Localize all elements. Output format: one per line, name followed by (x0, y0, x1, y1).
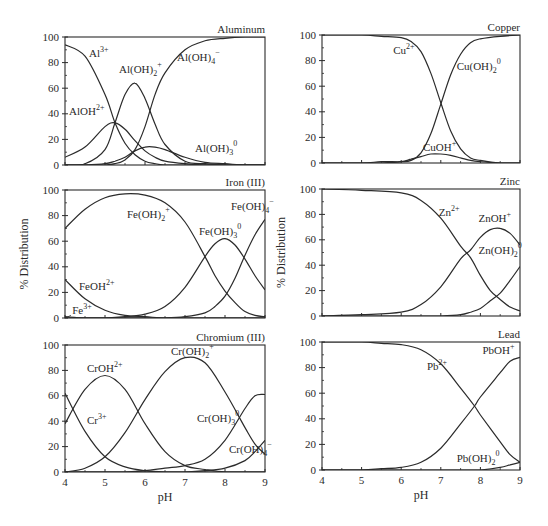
x-tick-label: 8 (478, 474, 484, 486)
panel-iron-iii: Iron (III)020406080100% DistributionFe3+… (17, 176, 274, 324)
curve-cr-oh-3-0 (65, 394, 265, 472)
y-tick-label: 20 (48, 440, 60, 452)
species-label-cr-oh-4: Cr(OH)4− (229, 440, 272, 458)
panel-title: Iron (III) (226, 176, 266, 189)
y-tick-label: 40 (48, 415, 60, 427)
y-tick-label: 40 (48, 107, 60, 119)
y-tick-label: 60 (305, 233, 317, 245)
x-tick-label: 9 (262, 476, 268, 488)
plot-frame (322, 342, 520, 470)
species-label-zn-oh-2-0: Zn(OH)20 (478, 241, 521, 259)
y-tick-label: 20 (305, 284, 317, 296)
y-tick-label: 0 (311, 310, 317, 322)
curve-cu2 (322, 35, 520, 163)
y-tick-label: 100 (43, 184, 60, 196)
y-tick-label: 100 (300, 183, 317, 195)
x-axis-label: pH (414, 488, 429, 502)
panel-title: Copper (488, 21, 521, 33)
panel-aluminum: Aluminum020406080100Al3+AlOH2+Al(OH)2+Al… (43, 23, 266, 171)
panel-chromium-iii: Chromium (III)020406080100456789pHCr3+Cr… (43, 331, 273, 504)
species-label-al-oh-4: Al(OH)4− (177, 48, 220, 66)
curve-cu-oh-2-0 (322, 35, 520, 163)
y-tick-label: 100 (300, 29, 317, 41)
y-tick-label: 60 (305, 80, 317, 92)
y-tick-label: 60 (48, 82, 60, 94)
curve-cr3 (65, 393, 265, 472)
species-label-fe-oh-4: Fe(OH)4− (231, 197, 274, 215)
y-tick-label: 100 (43, 31, 60, 43)
y-tick-label: 20 (48, 133, 60, 145)
x-tick-label: 4 (62, 476, 68, 488)
y-tick-label: 0 (54, 312, 60, 324)
y-tick-label: 40 (305, 105, 317, 117)
curve-al-oh-2 (65, 83, 265, 165)
species-label-pb-oh-2-0: Pb(OH)20 (457, 449, 500, 467)
speciation-chart-grid: Aluminum020406080100Al3+AlOH2+Al(OH)2+Al… (0, 0, 548, 526)
y-tick-label: 80 (48, 364, 60, 376)
y-tick-label: 100 (43, 339, 60, 351)
species-label-feoh2: FeOH2+ (79, 278, 115, 292)
y-tick-label: 80 (305, 54, 317, 66)
species-label-al-oh-3-0: Al(OH)30 (195, 139, 237, 157)
species-label-cu2: Cu2+ (393, 42, 415, 56)
y-tick-label: 20 (305, 131, 317, 143)
y-tick-label: 80 (48, 209, 60, 221)
y-tick-label: 0 (54, 159, 60, 171)
y-tick-label: 60 (305, 387, 317, 399)
x-tick-label: 7 (438, 474, 444, 486)
x-tick-label: 6 (398, 474, 404, 486)
y-tick-label: 20 (48, 286, 60, 298)
speciation-figure: Aluminum020406080100Al3+AlOH2+Al(OH)2+Al… (0, 0, 548, 526)
y-tick-label: 60 (48, 235, 60, 247)
panel-zinc: Zinc020406080100% DistributionZn2+ZnOH+Z… (274, 175, 522, 322)
panel-title: Chromium (III) (196, 331, 265, 344)
y-tick-label: 20 (305, 438, 317, 450)
y-tick-label: 0 (54, 466, 60, 478)
species-label-aloh2: AlOH2+ (69, 103, 105, 117)
x-tick-label: 5 (102, 476, 108, 488)
species-label-fe3: Fe3+ (72, 302, 92, 316)
y-axis-label: % Distribution (17, 219, 31, 290)
species-label-cr-oh-3-0: Cr(OH)30 (197, 409, 239, 427)
species-label-pb2: Pb2+ (427, 358, 448, 372)
x-tick-label: 6 (142, 476, 148, 488)
y-tick-label: 80 (48, 56, 60, 68)
panel-title: Zinc (500, 175, 520, 187)
y-tick-label: 60 (48, 389, 60, 401)
species-label-al3: Al3+ (89, 45, 109, 59)
species-label-al-oh-2: Al(OH)2+ (119, 60, 162, 78)
y-tick-label: 0 (311, 464, 317, 476)
species-label-fe-oh-2: Fe(OH)2+ (127, 205, 170, 223)
species-label-cu-oh-2-0: Cu(OH)20 (457, 57, 501, 75)
panel-lead: Lead020406080100456789pHPb2+PbOH+Pb(OH)2… (300, 328, 524, 502)
y-tick-label: 80 (305, 208, 317, 220)
y-axis-label: % Distribution (274, 217, 288, 288)
curve-pb2 (322, 342, 520, 462)
plot-frame (322, 35, 520, 163)
x-tick-label: 9 (517, 474, 523, 486)
x-tick-label: 4 (319, 474, 325, 486)
x-axis-label: pH (158, 490, 173, 504)
species-label-fe-oh-3-0: Fe(OH)30 (199, 222, 241, 240)
species-label-cr3: Cr3+ (87, 412, 107, 426)
species-label-croh2: CrOH2+ (87, 360, 123, 374)
panel-title: Aluminum (217, 23, 265, 35)
y-tick-label: 40 (305, 412, 317, 424)
y-tick-label: 40 (305, 259, 317, 271)
y-tick-label: 80 (305, 361, 317, 373)
y-tick-label: 40 (48, 260, 60, 272)
species-label-pboh: PbOH+ (482, 342, 515, 356)
panel-copper: Copper020406080100Cu2+CuOH+Cu(OH)20 (300, 21, 521, 169)
x-tick-label: 7 (182, 476, 188, 488)
curve-znoh (322, 228, 520, 316)
species-label-zn2: Zn2+ (439, 204, 460, 218)
x-tick-label: 8 (222, 476, 228, 488)
species-label-znoh: ZnOH+ (478, 210, 511, 224)
curve-al-oh-3-0 (65, 147, 265, 165)
x-tick-label: 5 (359, 474, 365, 486)
y-tick-label: 100 (300, 336, 317, 348)
y-tick-label: 0 (311, 157, 317, 169)
panel-title: Lead (498, 328, 520, 340)
